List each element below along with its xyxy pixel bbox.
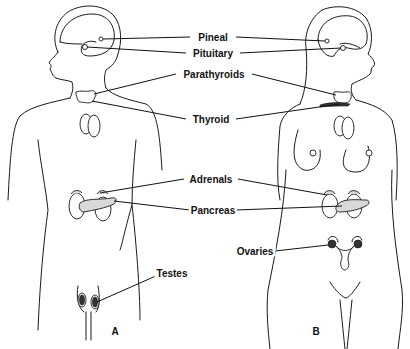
ovary-left-b — [328, 240, 336, 248]
pituitary-gland-a — [83, 45, 88, 50]
label-pineal: Pineal — [196, 32, 229, 43]
pituitary-gland-b — [341, 46, 346, 51]
label-ovaries: Ovaries — [235, 246, 276, 257]
endocrine-diagram: Pineal Pituitary Parathyroids Thyroid Ad… — [0, 0, 410, 349]
adrenal-left-a — [71, 191, 82, 195]
nipple-left-b — [310, 150, 316, 156]
pineal-gland-b — [325, 39, 329, 43]
figure-label-a: A — [109, 326, 120, 337]
ovary-right-b — [354, 240, 362, 248]
label-parathyroids: Parathyroids — [181, 69, 246, 80]
label-testes: Testes — [155, 268, 190, 279]
label-thyroid: Thyroid — [191, 114, 232, 125]
thyroid-lobe-right-a — [88, 115, 100, 137]
figure-b-glands — [310, 39, 372, 270]
adrenal-left-b — [324, 191, 335, 194]
adrenal-right-b — [348, 191, 360, 194]
parathyroid-gland-b — [334, 92, 352, 104]
pineal-gland-a — [99, 37, 103, 41]
nipple-right-b — [366, 150, 372, 156]
thyroid-lobe-right-b — [342, 117, 354, 139]
uterus-b — [336, 246, 354, 270]
figure-label-b: B — [310, 326, 321, 337]
label-pituitary: Pituitary — [191, 48, 235, 59]
figure-a-glands — [69, 37, 116, 309]
label-adrenals: Adrenals — [188, 174, 235, 185]
label-pancreas: Pancreas — [189, 205, 237, 216]
figure-b-outline — [267, 7, 402, 349]
figure-a-outline — [8, 6, 162, 340]
